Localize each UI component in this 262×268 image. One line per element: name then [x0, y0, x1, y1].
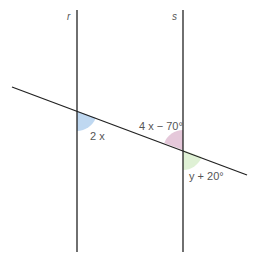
diagram-canvas: r s 2 x 4 x − 70° y + 20° — [0, 0, 262, 268]
angle-label-4x-70: 4 x − 70° — [139, 120, 183, 132]
angle-arc-2x — [77, 111, 96, 131]
angle-label-2x: 2 x — [90, 130, 105, 142]
transversal — [12, 87, 247, 175]
angle-arc-y-20 — [183, 150, 202, 170]
line-r-label: r — [67, 11, 71, 22]
line-s-label: s — [172, 11, 177, 22]
angle-label-y-20: y + 20° — [189, 170, 224, 182]
